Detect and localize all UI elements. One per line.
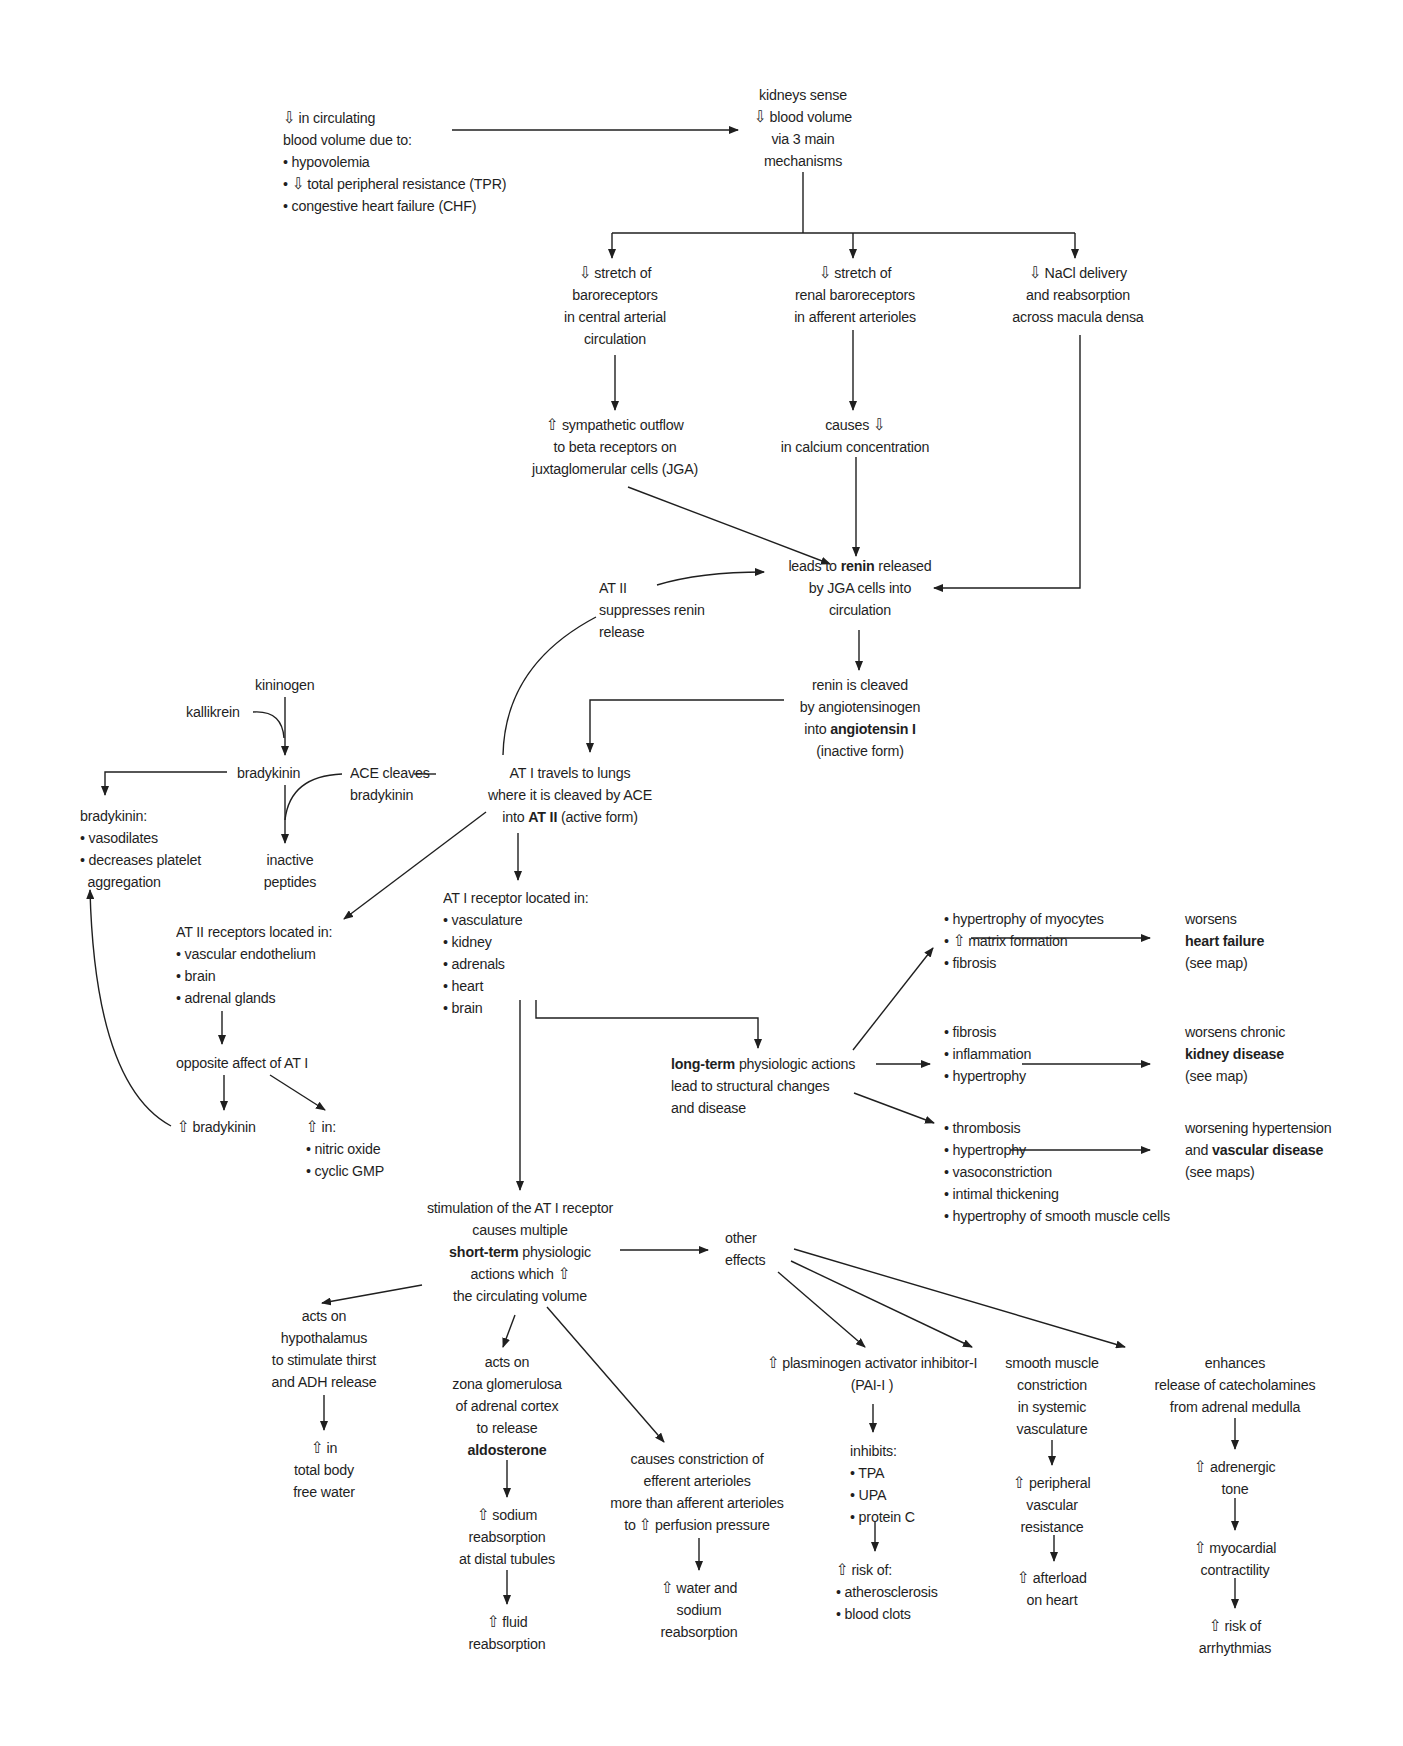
text-line: in systemic bbox=[997, 1396, 1107, 1418]
text-line: • protein C bbox=[850, 1506, 915, 1528]
node-cause: ⇩ in circulating blood volume due to: • … bbox=[283, 107, 506, 217]
text-line: actions which ⇧ bbox=[419, 1263, 621, 1285]
text-line: ⇧ in bbox=[278, 1437, 370, 1459]
text-line: stimulation of the AT I receptor bbox=[419, 1197, 621, 1219]
text-line: peptides bbox=[253, 871, 327, 893]
node-outcome-vascular-disease: worsening hypertension and vascular dise… bbox=[1185, 1117, 1332, 1183]
node-peripheral-vascular-resistance: ⇧ peripheral vascular resistance bbox=[1001, 1472, 1102, 1538]
text-line: • hypertrophy bbox=[944, 1139, 1170, 1161]
text-fragment: released bbox=[875, 557, 932, 574]
node-risk-of-atherosclerosis: ⇧ risk of: • atherosclerosis • blood clo… bbox=[836, 1559, 938, 1625]
text-line: in calcium concentration bbox=[768, 436, 943, 458]
text-line: AT II receptors located in: bbox=[176, 921, 332, 943]
node-mechanism-renal-baroreceptors: ⇩ stretch of renal baroreceptors in affe… bbox=[777, 262, 933, 328]
text-line: worsens chronic bbox=[1185, 1021, 1285, 1043]
text-line: the circulating volume bbox=[419, 1285, 621, 1307]
text-line: more than afferent arterioles bbox=[600, 1492, 793, 1514]
text-line: blood volume due to: bbox=[283, 129, 506, 151]
text-line: • vasoconstriction bbox=[944, 1161, 1170, 1183]
node-at2-suppresses-renin: AT II suppresses renin release bbox=[599, 577, 705, 643]
keyword-renin: renin bbox=[841, 557, 875, 574]
text-line: arrhythmias bbox=[1184, 1637, 1285, 1659]
text-line: effects bbox=[725, 1249, 765, 1271]
node-opposite-affect: opposite affect of AT I bbox=[176, 1052, 308, 1074]
node-outcome-heart-failure: worsens heart failure (see map) bbox=[1185, 908, 1264, 974]
node-increase-no-cgmp: ⇧ in: • nitric oxide • cyclic GMP bbox=[306, 1116, 384, 1182]
node-water-sodium-reabsorption: ⇧ water and sodium reabsorption bbox=[648, 1577, 749, 1643]
text-line: • vascular endothelium bbox=[176, 943, 332, 965]
node-mechanism-macula-densa: ⇩ NaCl delivery and reabsorption across … bbox=[1004, 262, 1151, 328]
text-line: • brain bbox=[443, 997, 588, 1019]
text-line: other bbox=[725, 1227, 765, 1249]
node-at1-receptor-locations: AT I receptor located in: • vasculature … bbox=[443, 887, 588, 1019]
text-line: contractility bbox=[1184, 1559, 1285, 1581]
text-line: ⇧ bradykinin bbox=[177, 1116, 256, 1138]
text-line: release of catecholamines bbox=[1148, 1374, 1323, 1396]
text-line: of adrenal cortex bbox=[438, 1395, 576, 1417]
keyword-long-term: long-term bbox=[671, 1055, 735, 1072]
node-short-term-actions: stimulation of the AT I receptor causes … bbox=[419, 1197, 621, 1307]
node-renin-cleaved: renin is cleaved by angiotensinogen into… bbox=[786, 674, 933, 762]
node-bradykinin: bradykinin bbox=[237, 762, 300, 784]
text-line: from adrenal medulla bbox=[1148, 1396, 1323, 1418]
text-line: resistance bbox=[1001, 1516, 1102, 1538]
node-bradykinin-effects: bradykinin: • vasodilates • decreases pl… bbox=[80, 805, 201, 893]
keyword-short-term: short-term bbox=[449, 1243, 518, 1260]
text-line: vasculature bbox=[997, 1418, 1107, 1440]
text-line: to beta receptors on bbox=[523, 436, 707, 458]
node-calcium: causes ⇩ in calcium concentration bbox=[768, 414, 943, 458]
text-line: opposite affect of AT I bbox=[176, 1052, 308, 1074]
text-line: • thrombosis bbox=[944, 1117, 1170, 1139]
text-line: efferent arterioles bbox=[600, 1470, 793, 1492]
text-line: ⇧ risk of: bbox=[836, 1559, 938, 1581]
text-line: kidneys sense bbox=[745, 84, 861, 106]
text-line: constriction bbox=[997, 1374, 1107, 1396]
text-line: • UPA bbox=[850, 1484, 915, 1506]
text-line: ⇩ NaCl delivery bbox=[1004, 262, 1151, 284]
node-kallikrein: kallikrein bbox=[186, 701, 240, 723]
node-inhibits: inhibits: • TPA • UPA • protein C bbox=[850, 1440, 915, 1528]
text-line: • blood clots bbox=[836, 1603, 938, 1625]
text-line: by JGA cells into bbox=[773, 577, 948, 599]
text-line: • kidney bbox=[443, 931, 588, 953]
text-line: aggregation bbox=[80, 871, 201, 893]
text-line: • decreases platelet bbox=[80, 849, 201, 871]
text-line: via 3 main bbox=[745, 128, 861, 150]
node-sodium-reabsorption: ⇧ sodium reabsorption at distal tubules bbox=[438, 1504, 576, 1570]
node-zona-glomerulosa: acts on zona glomerulosa of adrenal cort… bbox=[438, 1351, 576, 1461]
text-line: and vascular disease bbox=[1185, 1139, 1332, 1161]
keyword-kidney-disease: kidney disease bbox=[1185, 1045, 1284, 1062]
text-line: free water bbox=[278, 1481, 370, 1503]
text-line: baroreceptors bbox=[546, 284, 684, 306]
node-arrhythmias: ⇧ risk of arrhythmias bbox=[1184, 1615, 1285, 1659]
text-line: heart failure bbox=[1185, 930, 1264, 952]
text-line: across macula densa bbox=[1004, 306, 1151, 328]
text-line: hypothalamus bbox=[260, 1327, 389, 1349]
text-line: ⇧ sympathetic outflow bbox=[523, 414, 707, 436]
text-line: release bbox=[599, 621, 705, 643]
keyword-heart-failure: heart failure bbox=[1185, 932, 1264, 949]
text-line: ⇧ risk of bbox=[1184, 1615, 1285, 1637]
text-line: • intimal thickening bbox=[944, 1183, 1170, 1205]
text-line: reabsorption bbox=[452, 1633, 562, 1655]
node-efferent-constriction: causes constriction of efferent arteriol… bbox=[600, 1448, 793, 1536]
text-line: • vasodilates bbox=[80, 827, 201, 849]
text-line: where it is cleaved by ACE bbox=[478, 784, 662, 806]
node-catecholamines: enhances release of catecholamines from … bbox=[1148, 1352, 1323, 1418]
node-at1-travels-to-lungs: AT I travels to lungs where it is cleave… bbox=[478, 762, 662, 828]
keyword-at-ii: AT II bbox=[528, 808, 557, 825]
text-line: inhibits: bbox=[850, 1440, 915, 1462]
text-line: worsens bbox=[1185, 908, 1264, 930]
text-line: lead to structural changes bbox=[671, 1075, 855, 1097]
text-line: acts on bbox=[438, 1351, 576, 1373]
text-line: AT II bbox=[599, 577, 705, 599]
text-fragment: physiologic actions bbox=[735, 1055, 855, 1072]
text-line: ⇧ plasminogen activator inhibitor-I bbox=[762, 1352, 983, 1374]
text-line: to release bbox=[438, 1417, 576, 1439]
node-sympathetic-outflow: ⇧ sympathetic outflow to beta receptors … bbox=[523, 414, 707, 480]
text-line: causes constriction of bbox=[600, 1448, 793, 1470]
text-line: circulation bbox=[546, 328, 684, 350]
node-at2-receptors: AT II receptors located in: • vascular e… bbox=[176, 921, 332, 1009]
text-line: ⇧ sodium bbox=[438, 1504, 576, 1526]
node-renin-released: leads to renin released by JGA cells int… bbox=[773, 555, 948, 621]
